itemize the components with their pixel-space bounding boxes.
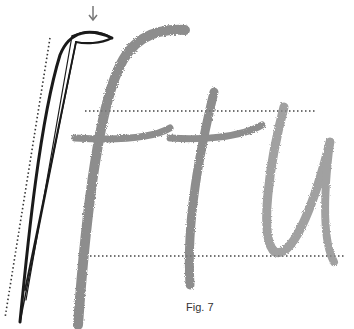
calligraphy-figure: Fig. 7 <box>0 0 354 329</box>
letter-t <box>170 92 262 285</box>
figure-drawing <box>0 0 354 329</box>
letter-f <box>75 30 185 325</box>
pen-angle-diagram <box>20 32 112 322</box>
figure-caption: Fig. 7 <box>186 301 214 313</box>
down-arrow-icon <box>89 6 97 20</box>
letter-u <box>267 107 334 262</box>
